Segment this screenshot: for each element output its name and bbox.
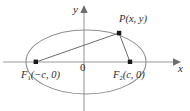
focus2-point-marker xyxy=(128,60,132,64)
point-p-label: P(x, y) xyxy=(119,14,147,25)
ellipse-figure: y x 0 F1(−c, 0) F2(c, 0) P(x, y) xyxy=(0,0,190,111)
ellipse-diagram-canvas xyxy=(0,0,190,111)
origin-label: 0 xyxy=(80,62,86,73)
focus1-label-coords: (−c, 0) xyxy=(31,69,60,80)
point-p-label-coords: (x, y) xyxy=(125,13,147,24)
y-axis-arrow-icon xyxy=(80,5,87,13)
focus2-label-subscript: 2 xyxy=(119,74,122,81)
focus2-label-coords: (c, 0) xyxy=(123,69,145,80)
focus1-point-marker xyxy=(34,60,38,64)
point-p-marker xyxy=(117,31,121,35)
focus1-label: F1(−c, 0) xyxy=(21,70,60,81)
x-axis-label: x xyxy=(178,63,183,74)
y-axis-label: y xyxy=(73,4,78,15)
focus2-label: F2(c, 0) xyxy=(113,70,145,81)
focus1-label-subscript: 1 xyxy=(27,74,30,81)
